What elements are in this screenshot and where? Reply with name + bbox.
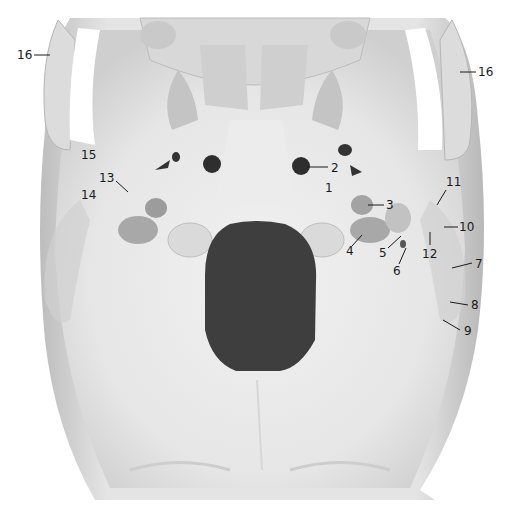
foramen-left-ovale <box>203 155 221 173</box>
label-16-left: 16 <box>17 49 32 61</box>
label-5: 5 <box>379 247 387 259</box>
label-14: 14 <box>81 189 96 201</box>
label-3: 3 <box>386 199 394 211</box>
label-13: 13 <box>99 172 114 184</box>
label-10: 10 <box>459 221 474 233</box>
label-4: 4 <box>346 245 354 257</box>
skull-base-figure: 1 2 3 4 5 6 7 8 9 10 11 12 13 14 15 16 1… <box>0 0 510 519</box>
label-7: 7 <box>475 258 483 270</box>
label-2: 2 <box>331 162 339 174</box>
foramen-magnum <box>205 221 316 371</box>
label-1: 1 <box>325 182 333 194</box>
label-8: 8 <box>471 299 479 311</box>
label-16-right: 16 <box>478 66 493 78</box>
foramen-right-ovale <box>292 157 310 175</box>
label-9: 9 <box>464 325 472 337</box>
label-15: 15 <box>81 149 96 161</box>
label-12: 12 <box>422 248 437 260</box>
label-6: 6 <box>393 265 401 277</box>
label-11: 11 <box>446 176 461 188</box>
